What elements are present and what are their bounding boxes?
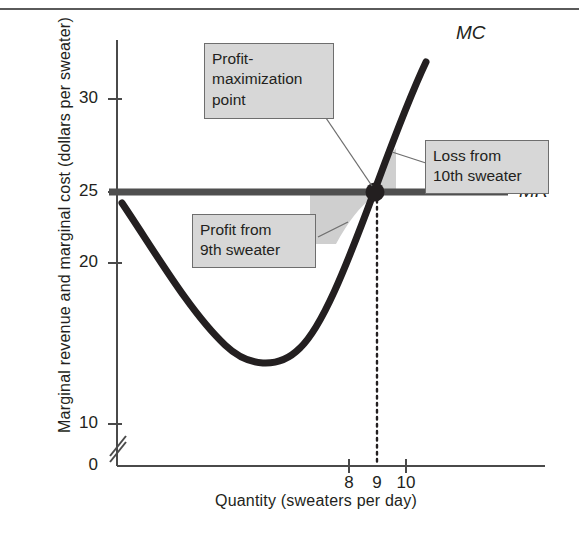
callout-profit-from-9th-sweater: Profit from 9th sweater — [192, 214, 316, 268]
mc-curve-label: MC — [456, 22, 486, 44]
x-axis-title: Quantity (sweaters per day) — [215, 492, 545, 510]
x-tick-label-10: 10 — [391, 473, 421, 493]
y-tick-label-0: 0 — [52, 455, 98, 475]
x-tick-label-8: 8 — [334, 473, 364, 493]
figure-container: 30 25 20 10 0 8 9 10 Marginal revenue an… — [0, 0, 579, 540]
x-tick-label-9: 9 — [362, 473, 392, 493]
profit-max-leader-line — [326, 118, 372, 186]
callout-profit-maximization-point: Profit- maximization point — [204, 43, 334, 119]
profit-max-point-marker — [366, 183, 385, 202]
y-axis-title: Marginal revenue and marginal cost (doll… — [55, 10, 75, 440]
callout-loss-from-10th-sweater: Loss from 10th sweater — [425, 140, 549, 194]
